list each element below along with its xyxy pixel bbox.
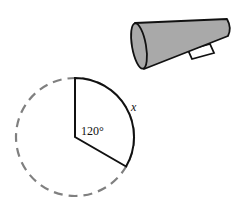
- megaphone-body: [135, 19, 230, 69]
- sector: [75, 78, 134, 167]
- megaphone-icon: [128, 19, 230, 70]
- diagram-canvas: 120° x: [0, 0, 242, 213]
- arc-label: x: [130, 100, 137, 114]
- angle-label: 120°: [81, 124, 104, 138]
